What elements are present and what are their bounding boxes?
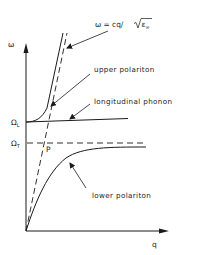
omega-L-label: ΩL bbox=[11, 118, 20, 128]
svg-text:ΩT: ΩT bbox=[11, 139, 21, 149]
svg-text:upper polariton: upper polariton bbox=[94, 65, 155, 74]
polariton-dispersion-diagram: ω q ΩL ΩT P ω = cq/ ε∞ upper polariton l… bbox=[0, 0, 199, 255]
svg-text:lower polariton: lower polariton bbox=[92, 191, 151, 200]
y-axis-arrow-icon bbox=[24, 43, 29, 53]
svg-text:longitudinal phonon: longitudinal phonon bbox=[94, 97, 172, 106]
photon-line-annotation: ω = cq/ ε∞ bbox=[67, 19, 152, 49]
lower-polariton-pointer-arrow bbox=[70, 163, 86, 188]
x-axis-arrow-icon bbox=[159, 229, 169, 234]
upper-polariton-pointer-arrow bbox=[51, 74, 90, 106]
photon-dispersion-line bbox=[26, 33, 67, 231]
longitudinal-phonon-pointer-arrow bbox=[70, 104, 90, 119]
longitudinal-phonon-line bbox=[26, 119, 128, 123]
x-axis-label: q bbox=[152, 240, 157, 249]
lower-polariton-annotation: lower polariton bbox=[70, 163, 151, 200]
svg-text:ΩL: ΩL bbox=[11, 118, 20, 128]
svg-text:ω = cq/: ω = cq/ bbox=[95, 20, 124, 29]
y-axis-label: ω bbox=[8, 40, 14, 49]
omega-T-label: ΩT bbox=[11, 139, 21, 149]
svg-text:ε∞: ε∞ bbox=[142, 20, 150, 30]
longitudinal-phonon-annotation: longitudinal phonon bbox=[70, 97, 172, 119]
crossing-point-label: P bbox=[46, 145, 51, 154]
equation-pointer-arrow bbox=[67, 31, 108, 48]
lower-polariton-curve bbox=[26, 147, 146, 231]
